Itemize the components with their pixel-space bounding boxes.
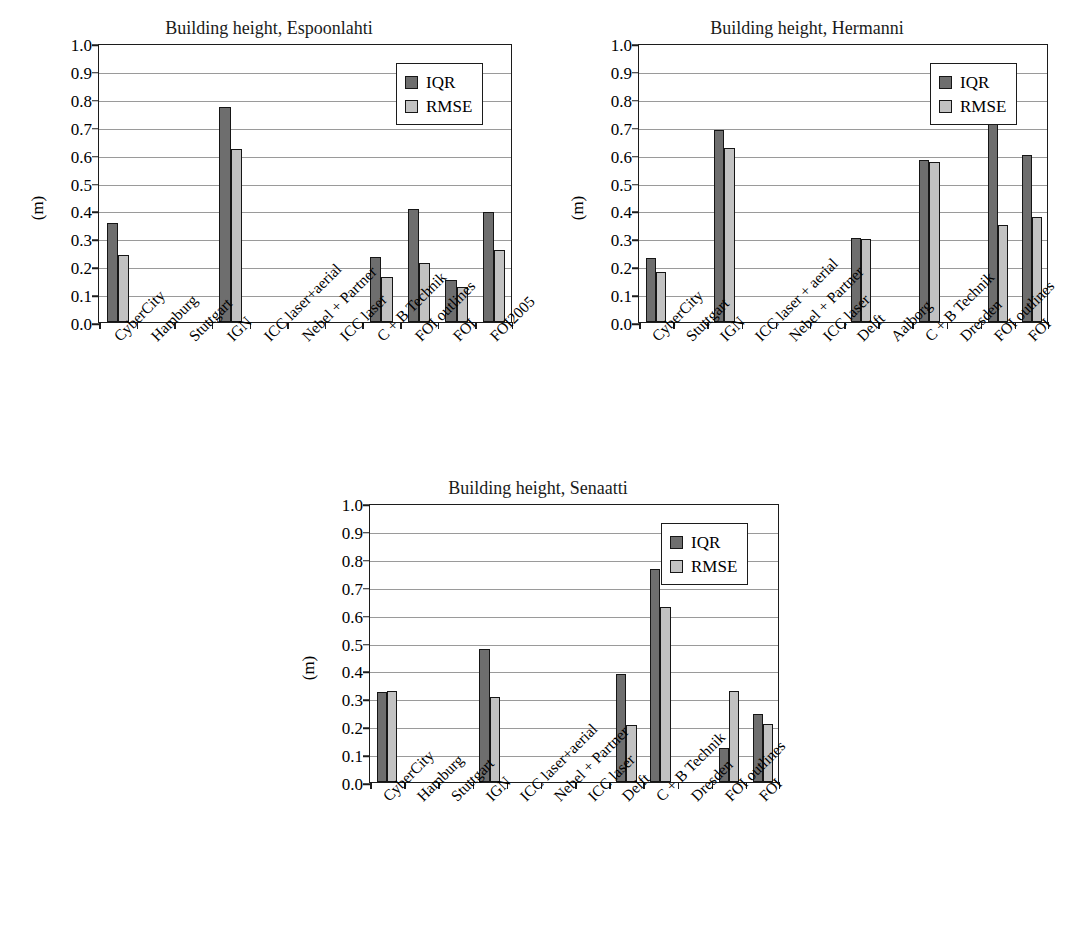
y-tick-label: 1.0	[342, 497, 363, 514]
y-tick-label: 0.0	[71, 316, 92, 333]
y-tick-label: 0.2	[342, 720, 363, 737]
gridline	[99, 268, 511, 269]
gridline	[370, 645, 778, 646]
gridline	[99, 157, 511, 158]
y-axis-label: (m)	[568, 188, 588, 228]
bar-iqr	[219, 107, 230, 322]
y-tick-label: 0.1	[342, 748, 363, 765]
gridline	[639, 157, 1047, 158]
y-tick-mark	[632, 128, 639, 130]
y-tick-mark	[632, 100, 639, 102]
y-tick-mark	[92, 295, 99, 297]
bar-rmse	[118, 255, 129, 322]
y-tick-mark	[363, 672, 370, 674]
y-tick-label: 0.8	[71, 92, 92, 109]
chart-legend: IQR RMSE	[661, 523, 748, 585]
y-tick-mark	[92, 212, 99, 214]
y-tick-label: 0.0	[611, 316, 632, 333]
x-tick-mark	[639, 322, 641, 329]
y-tick-label: 0.7	[342, 580, 363, 597]
y-tick-mark	[363, 616, 370, 618]
y-tick-mark	[363, 727, 370, 729]
gridline	[639, 212, 1047, 213]
y-tick-label: 0.9	[611, 64, 632, 81]
y-tick-mark	[632, 240, 639, 242]
y-tick-mark	[92, 184, 99, 186]
gridline	[370, 672, 778, 673]
gridline	[370, 589, 778, 590]
y-tick-mark	[632, 295, 639, 297]
y-tick-label: 0.8	[342, 552, 363, 569]
chart-panel-hermanni: Building height, Hermanni (m) 0.00.10.20…	[538, 18, 1076, 478]
y-tick-label: 0.4	[71, 204, 92, 221]
y-tick-label: 0.2	[71, 260, 92, 277]
legend-swatch-rmse-icon	[405, 100, 418, 113]
bar-iqr	[650, 569, 660, 782]
chart-legend: IQR RMSE	[930, 63, 1017, 125]
y-tick-mark	[632, 212, 639, 214]
legend-swatch-rmse-icon	[670, 560, 683, 573]
y-tick-label: 0.3	[611, 232, 632, 249]
y-tick-label: 0.3	[342, 692, 363, 709]
bar-iqr	[646, 258, 656, 322]
gridline	[99, 185, 511, 186]
y-tick-label: 0.5	[611, 176, 632, 193]
legend-item-iqr: IQR	[670, 530, 737, 554]
y-tick-label: 0.7	[71, 120, 92, 137]
bar-rmse	[231, 149, 242, 322]
y-tick-mark	[92, 240, 99, 242]
gridline	[639, 185, 1047, 186]
legend-label-iqr: IQR	[426, 74, 455, 91]
bar-iqr	[483, 212, 494, 322]
y-tick-mark	[92, 44, 99, 46]
legend-swatch-iqr-icon	[405, 76, 418, 89]
y-tick-label: 0.4	[611, 204, 632, 221]
y-tick-mark	[363, 700, 370, 702]
y-tick-mark	[92, 323, 99, 325]
y-tick-mark	[363, 532, 370, 534]
chart-panel-espoonlahti: Building height, Espoonlahti (m) 0.00.10…	[0, 18, 538, 478]
gridline	[639, 240, 1047, 241]
y-tick-label: 0.3	[71, 232, 92, 249]
legend-label-iqr: IQR	[691, 534, 720, 551]
y-tick-label: 0.4	[342, 664, 363, 681]
legend-label-rmse: RMSE	[691, 558, 737, 575]
y-tick-label: 0.5	[342, 636, 363, 653]
y-tick-label: 0.2	[611, 260, 632, 277]
legend-swatch-iqr-icon	[939, 76, 952, 89]
y-tick-mark	[92, 156, 99, 158]
gridline	[370, 617, 778, 618]
legend-item-iqr: IQR	[405, 70, 472, 94]
y-tick-mark	[632, 267, 639, 269]
y-tick-label: 0.1	[611, 288, 632, 305]
y-tick-mark	[632, 184, 639, 186]
bar-iqr	[377, 692, 387, 782]
y-tick-mark	[92, 100, 99, 102]
x-tick-mark	[99, 322, 101, 329]
gridline	[99, 240, 511, 241]
y-tick-mark	[632, 44, 639, 46]
bar-rmse	[660, 607, 670, 782]
y-tick-label: 0.6	[342, 608, 363, 625]
legend-swatch-iqr-icon	[670, 536, 683, 549]
bar-rmse	[929, 162, 939, 322]
bar-iqr	[714, 130, 724, 323]
y-tick-label: 0.6	[611, 148, 632, 165]
legend-item-rmse: RMSE	[939, 94, 1006, 118]
gridline	[639, 129, 1047, 130]
y-tick-mark	[363, 560, 370, 562]
legend-item-iqr: IQR	[939, 70, 1006, 94]
y-tick-mark	[632, 72, 639, 74]
y-tick-label: 0.6	[71, 148, 92, 165]
legend-label-rmse: RMSE	[960, 98, 1006, 115]
bar-rmse	[724, 148, 734, 322]
gridline	[370, 700, 778, 701]
y-tick-mark	[632, 156, 639, 158]
y-tick-label: 0.7	[611, 120, 632, 137]
y-tick-mark	[363, 783, 370, 785]
y-tick-mark	[363, 504, 370, 506]
y-tick-label: 0.9	[71, 64, 92, 81]
legend-item-rmse: RMSE	[405, 94, 472, 118]
y-tick-label: 0.0	[342, 776, 363, 793]
y-tick-mark	[363, 588, 370, 590]
